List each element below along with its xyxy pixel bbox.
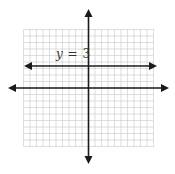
coordinate-plane: y = 3 bbox=[0, 0, 175, 174]
line-label: y = 3 bbox=[55, 47, 90, 61]
x-axis-left-arrow-icon bbox=[8, 84, 16, 92]
line-left-arrow-icon bbox=[24, 62, 32, 70]
line-right-arrow-icon bbox=[149, 62, 157, 70]
y-axis bbox=[85, 9, 93, 164]
x-axis-right-arrow-icon bbox=[161, 84, 169, 92]
y-axis-down-arrow-icon bbox=[85, 156, 93, 164]
y-axis-up-arrow-icon bbox=[85, 9, 93, 17]
line-y-equals-3 bbox=[24, 62, 157, 70]
